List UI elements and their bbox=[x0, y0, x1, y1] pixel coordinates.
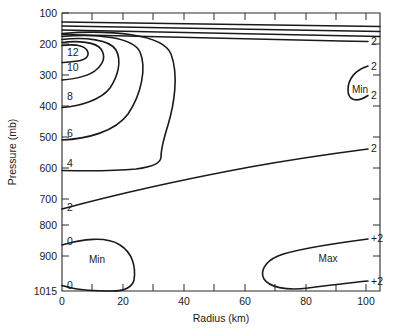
contour-label-6: 6 bbox=[67, 127, 73, 139]
annotation-min-bottom-left: Min bbox=[89, 254, 105, 265]
y-axis-labels: 100 200 300 400 500 600 700 800 900 1015 bbox=[34, 7, 58, 297]
y-label-800: 800 bbox=[39, 219, 57, 231]
x-label-20: 20 bbox=[117, 295, 129, 307]
contour-label-right-2b: 2 bbox=[371, 60, 377, 72]
x-axis-title: Radius (km) bbox=[193, 312, 250, 324]
x-axis-ticks-top bbox=[92, 13, 366, 20]
contour-level-2-lower bbox=[62, 149, 368, 209]
contour-label-0-upper: 0 bbox=[67, 235, 73, 247]
x-label-100: 100 bbox=[357, 295, 375, 307]
contour-label-10: 10 bbox=[67, 61, 79, 73]
x-label-60: 60 bbox=[239, 295, 251, 307]
y-label-600: 600 bbox=[39, 162, 57, 174]
contour-label-2: 2 bbox=[67, 201, 73, 213]
contour-labels-right: 2 2 2 2 +2 +2 bbox=[371, 35, 383, 287]
contour-label-right-p2a: +2 bbox=[371, 232, 383, 244]
contour-labels-left: 12 10 8 6 4 2 0 0 bbox=[67, 46, 79, 291]
x-label-0: 0 bbox=[59, 295, 65, 307]
x-label-80: 80 bbox=[300, 295, 312, 307]
contour-label-right-2a: 2 bbox=[371, 35, 377, 47]
contour-label-right-p2b: +2 bbox=[371, 275, 383, 287]
annotation-max-bottom-right: Max bbox=[319, 253, 338, 264]
contour-label-8: 8 bbox=[67, 90, 73, 102]
x-axis-ticks-bottom bbox=[92, 284, 366, 291]
x-axis-labels: 0 20 40 60 80 100 bbox=[59, 295, 375, 307]
x-label-40: 40 bbox=[178, 295, 190, 307]
y-label-100: 100 bbox=[39, 7, 57, 19]
contour-level-4 bbox=[62, 32, 175, 171]
contour-level-0-min-lobe bbox=[62, 239, 135, 291]
axes-border bbox=[62, 13, 380, 291]
annotation-min-right: Min bbox=[352, 84, 368, 95]
contour-top-1 bbox=[62, 22, 380, 27]
y-label-900: 900 bbox=[39, 250, 57, 262]
y-label-700: 700 bbox=[39, 193, 57, 205]
y-axis-title: Pressure (mb) bbox=[6, 119, 18, 186]
contour-label-12: 12 bbox=[67, 46, 79, 58]
contour-plot-figure: 100 200 300 400 500 600 700 800 900 1015 bbox=[0, 0, 400, 331]
y-label-400: 400 bbox=[39, 100, 57, 112]
contour-level-2-max-right bbox=[263, 239, 368, 289]
y-label-500: 500 bbox=[39, 131, 57, 143]
y-label-1015: 1015 bbox=[34, 285, 58, 297]
y-label-300: 300 bbox=[39, 69, 57, 81]
contour-label-right-2c: 2 bbox=[371, 89, 377, 101]
plot-frame bbox=[62, 13, 380, 291]
contour-label-0-lower: 0 bbox=[67, 279, 73, 291]
y-label-200: 200 bbox=[39, 38, 57, 50]
contour-group-lobes bbox=[62, 32, 175, 171]
contour-label-right-2d: 2 bbox=[371, 142, 377, 154]
contour-label-4: 4 bbox=[67, 157, 73, 169]
